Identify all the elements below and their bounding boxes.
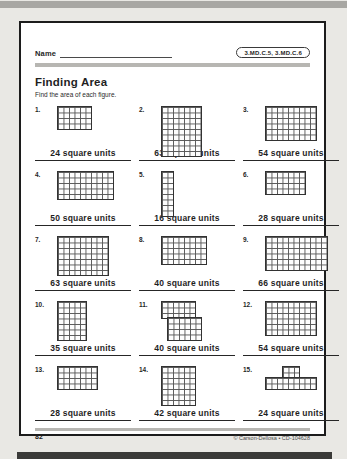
answer-text: 24 square units bbox=[50, 148, 115, 158]
problem-top: 5. bbox=[139, 170, 243, 213]
problem-top: 10. bbox=[35, 300, 139, 343]
answer-text: 42 square units bbox=[154, 408, 219, 418]
problem-top: 9. bbox=[243, 235, 339, 278]
figure bbox=[57, 301, 85, 340]
instructions-text: Find the area of each figure. bbox=[35, 91, 310, 98]
problem-item: 8. 40 square units bbox=[139, 233, 243, 298]
grid-block bbox=[161, 366, 196, 407]
problem-item: 12. 54 square units bbox=[243, 298, 339, 363]
problem-number: 8. bbox=[139, 235, 153, 278]
problem-top: 7. bbox=[35, 235, 139, 278]
answer-line: 40 square units bbox=[139, 343, 235, 356]
answer-text: 54 square units bbox=[258, 343, 323, 353]
figure bbox=[265, 301, 315, 334]
answer-line: 16 square units bbox=[139, 213, 235, 226]
figure bbox=[57, 171, 112, 199]
answer-text: 28 square units bbox=[258, 213, 323, 223]
answer-line: 54 square units bbox=[243, 343, 339, 356]
problem-item: 9. 66 square units bbox=[243, 233, 339, 298]
problem-item: 14. 42 square units bbox=[139, 363, 243, 428]
bottom-strip bbox=[17, 452, 332, 459]
problem-number: 7. bbox=[35, 235, 49, 278]
figure bbox=[161, 171, 172, 215]
problem-number: 3. bbox=[243, 105, 257, 148]
answer-text: 40 square units bbox=[154, 343, 219, 353]
answer-text: 40 square units bbox=[154, 278, 219, 288]
answer-text: 50 square units bbox=[50, 213, 115, 223]
grid-block bbox=[57, 236, 109, 277]
worksheet-page: Name 3.MD.C.5, 3.MD.C.6 Finding Area Fin… bbox=[19, 21, 326, 436]
figure bbox=[161, 301, 200, 340]
problem-number: 15. bbox=[243, 365, 257, 408]
problem-number: 4. bbox=[35, 170, 49, 213]
name-label: Name bbox=[35, 49, 56, 58]
grid-block bbox=[167, 317, 202, 341]
problem-number: 6. bbox=[243, 170, 257, 213]
problem-number: 10. bbox=[35, 300, 49, 343]
figure bbox=[57, 236, 107, 275]
figure bbox=[57, 106, 90, 128]
answer-line: 63 square units bbox=[35, 278, 131, 291]
problem-number: 9. bbox=[243, 235, 257, 278]
grid-block bbox=[57, 171, 114, 201]
footer-rule bbox=[35, 428, 310, 431]
answer-text: 66 square units bbox=[258, 278, 323, 288]
standards-badge: 3.MD.C.5, 3.MD.C.6 bbox=[236, 47, 310, 58]
copyright-text: © Carson-Dellosa • CD-104628 bbox=[233, 433, 310, 441]
figure bbox=[161, 106, 200, 156]
grid-block bbox=[265, 377, 317, 390]
grid-block bbox=[265, 236, 328, 271]
problem-number: 11. bbox=[139, 300, 153, 343]
answer-text: 28 square units bbox=[50, 408, 115, 418]
answer-text: 54 square units bbox=[258, 148, 323, 158]
name-row: Name 3.MD.C.5, 3.MD.C.6 bbox=[35, 42, 310, 58]
problem-item: 13. 28 square units bbox=[35, 363, 139, 428]
problem-top: 11. bbox=[139, 300, 243, 343]
top-strip bbox=[0, 1, 347, 8]
name-blank-line bbox=[60, 48, 172, 58]
problem-top: 14. bbox=[139, 365, 243, 408]
problem-number: 13. bbox=[35, 365, 49, 408]
grid-block bbox=[161, 106, 202, 158]
figure bbox=[161, 236, 205, 264]
grid-block bbox=[161, 171, 174, 217]
problem-top: 12. bbox=[243, 300, 339, 343]
problem-number: 2. bbox=[139, 105, 153, 148]
figure bbox=[57, 366, 96, 388]
header-rule bbox=[35, 63, 310, 67]
problem-item: 10. 35 square units bbox=[35, 298, 139, 363]
figure bbox=[265, 106, 315, 139]
problem-item: 15. 24 square units bbox=[243, 363, 339, 428]
problem-number: 1. bbox=[35, 105, 49, 148]
problem-top: 2. bbox=[139, 105, 243, 148]
problem-top: 6. bbox=[243, 170, 339, 213]
problem-top: 13. bbox=[35, 365, 139, 408]
answer-line: 35 square units bbox=[35, 343, 131, 356]
problem-number: 12. bbox=[243, 300, 257, 343]
answer-line: 24 square units bbox=[35, 148, 131, 161]
problem-item: 5. 16 square units bbox=[139, 168, 243, 233]
figure bbox=[265, 236, 326, 269]
problem-item: 1. 24 square units bbox=[35, 103, 139, 168]
answer-line: 28 square units bbox=[243, 213, 339, 226]
answer-line: 54 square units bbox=[243, 148, 339, 161]
page-title: Finding Area bbox=[35, 76, 310, 88]
problems-grid: 1. 24 square units 2. 63 square units 3.… bbox=[35, 103, 310, 428]
worksheet-scan: Name 3.MD.C.5, 3.MD.C.6 Finding Area Fin… bbox=[0, 0, 347, 459]
problem-number: 14. bbox=[139, 365, 153, 408]
grid-block bbox=[57, 366, 98, 390]
answer-line: 40 square units bbox=[139, 278, 235, 291]
problem-item: 11. 40 square units bbox=[139, 298, 243, 363]
figure bbox=[161, 366, 194, 405]
problem-top: 8. bbox=[139, 235, 243, 278]
problem-top: 15. bbox=[243, 365, 339, 408]
figure bbox=[265, 366, 315, 388]
problem-top: 1. bbox=[35, 105, 139, 148]
problem-item: 6. 28 square units bbox=[243, 168, 339, 233]
answer-text: 63 square units bbox=[50, 278, 115, 288]
footer-row: 82 © Carson-Dellosa • CD-104628 bbox=[35, 433, 310, 441]
grid-block bbox=[57, 301, 87, 342]
problem-item: 3. 54 square units bbox=[243, 103, 339, 168]
answer-line: 50 square units bbox=[35, 213, 131, 226]
problem-top: 4. bbox=[35, 170, 139, 213]
